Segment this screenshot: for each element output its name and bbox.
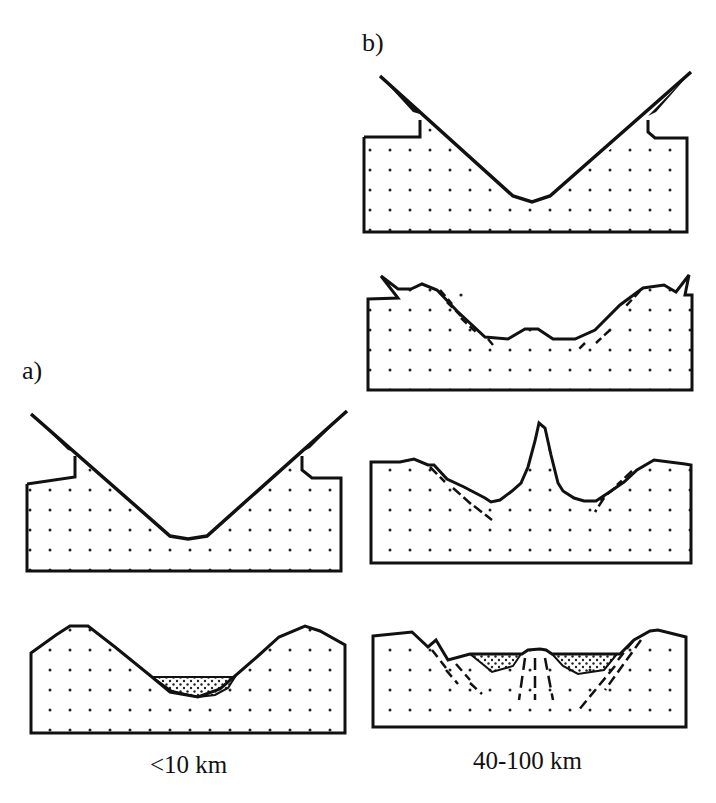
- panel-a-stage-1: [27, 411, 347, 571]
- panel-b-label: b): [362, 30, 384, 56]
- panel-a-label: a): [22, 358, 42, 384]
- panel-b-stage-2: [368, 275, 692, 390]
- caption-b: 40-100 km: [473, 748, 582, 773]
- panel-b-stage-1: [364, 72, 691, 232]
- caption-a: <10 km: [150, 752, 227, 777]
- panel-a-stage-2: [31, 626, 345, 733]
- panel-b-stage-3: [371, 422, 691, 563]
- panel-b-stage-4: [373, 630, 686, 727]
- diagram-canvas: [0, 0, 716, 803]
